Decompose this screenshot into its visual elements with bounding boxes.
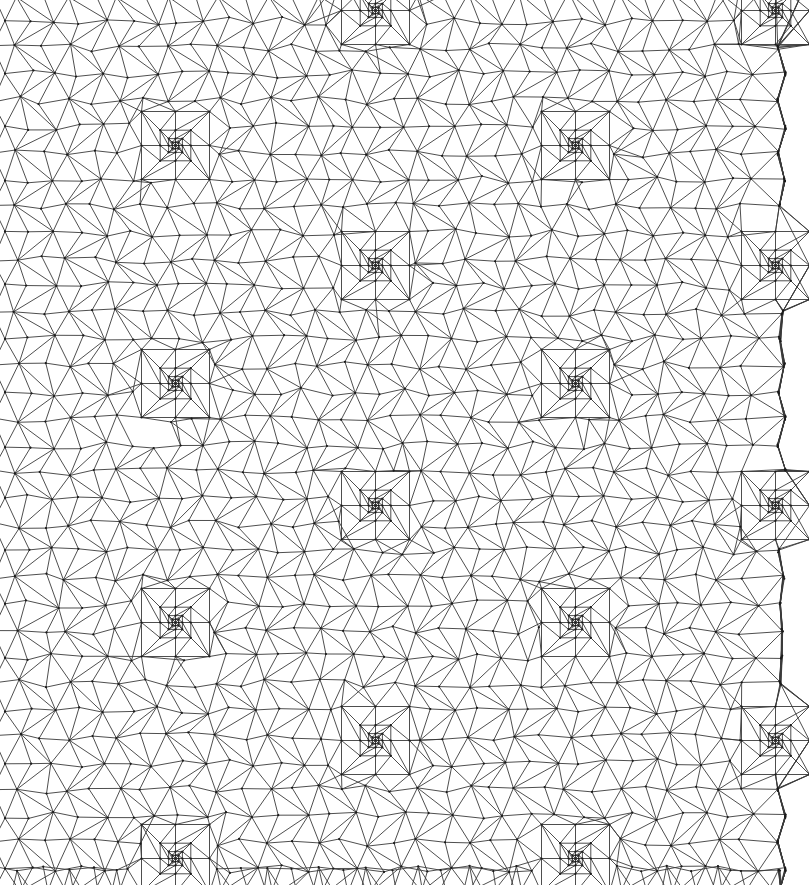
triangular-mesh-canvas xyxy=(0,0,809,885)
mesh-figure xyxy=(0,0,809,885)
